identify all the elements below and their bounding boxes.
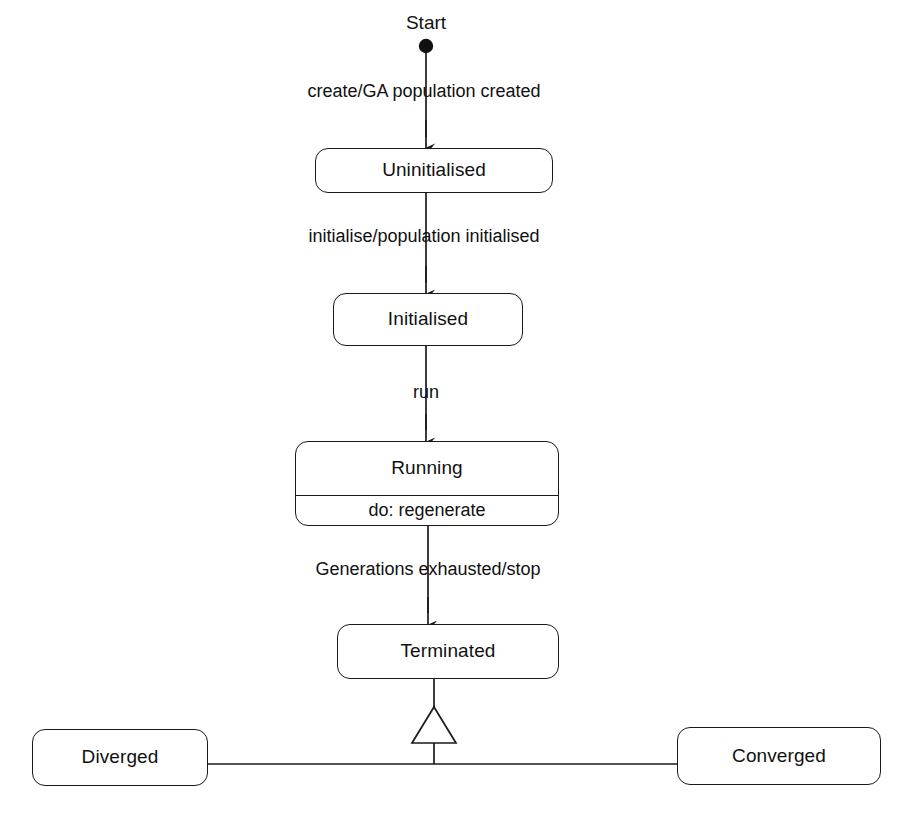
transition-label-run: run [356, 383, 496, 403]
state-label-converged: Converged [732, 746, 826, 767]
uml-state-diagram: Start create/GA population created initi… [0, 0, 912, 830]
transition-label-create: create/GA population created [224, 82, 624, 102]
state-activity-running: do: regenerate [368, 500, 485, 521]
state-name-compartment: Terminated [338, 625, 558, 678]
state-label-terminated: Terminated [401, 641, 496, 662]
state-initialised[interactable]: Initialised [333, 293, 523, 346]
state-name-compartment: Initialised [334, 294, 522, 345]
state-diverged[interactable]: Diverged [32, 729, 208, 786]
state-label-running: Running [391, 458, 462, 479]
state-uninitialised[interactable]: Uninitialised [315, 148, 553, 193]
transition-label-generations-exhausted: Generations exhausted/stop [228, 560, 628, 580]
state-label-initialised: Initialised [388, 309, 468, 330]
connector-layer [0, 0, 912, 830]
state-label-diverged: Diverged [82, 747, 159, 768]
state-name-compartment: Converged [678, 728, 880, 784]
state-name-compartment: Diverged [33, 730, 207, 785]
transition-label-initialise: initialise/population initialised [224, 227, 624, 247]
state-activity-compartment: do: regenerate [296, 495, 558, 525]
state-name-compartment: Running [296, 442, 558, 495]
state-running[interactable]: Running do: regenerate [295, 441, 559, 526]
state-converged[interactable]: Converged [677, 727, 881, 785]
start-label: Start [386, 12, 466, 34]
generalization-hollow-triangle [412, 707, 456, 743]
initial-pseudostate-dot [419, 39, 433, 53]
state-terminated[interactable]: Terminated [337, 624, 559, 679]
state-name-compartment: Uninitialised [316, 149, 552, 192]
state-label-uninitialised: Uninitialised [382, 160, 486, 181]
